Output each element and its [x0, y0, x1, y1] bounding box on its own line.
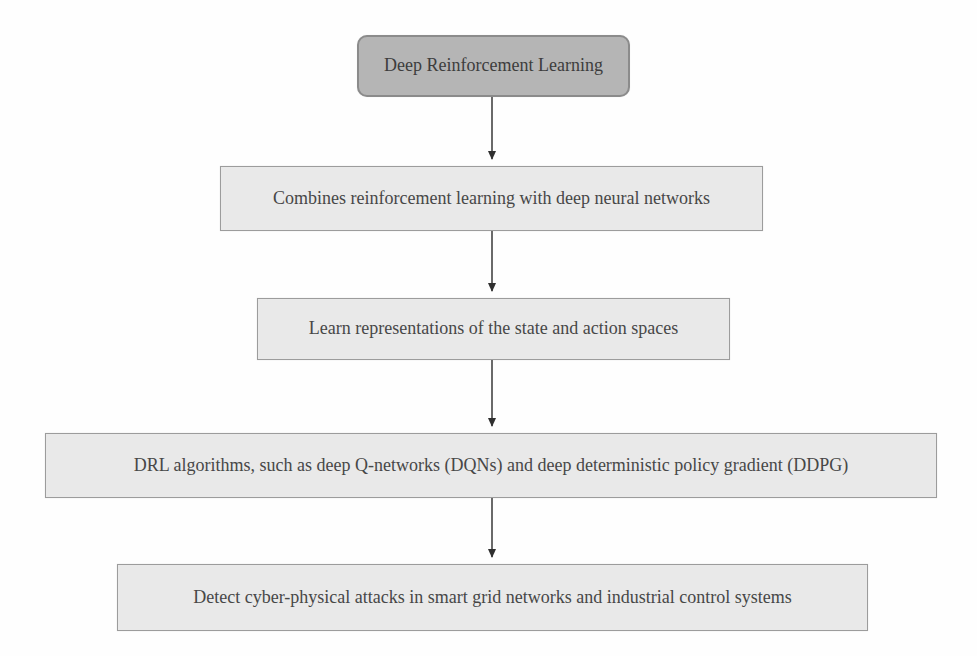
node-label: Learn representations of the state and a… [309, 318, 678, 340]
arrow-down-icon [488, 151, 496, 160]
node-label: DRL algorithms, such as deep Q-networks … [134, 455, 849, 477]
flowchart-node-algorithms: DRL algorithms, such as deep Q-networks … [45, 433, 937, 498]
flowchart-node-detect-attacks: Detect cyber-physical attacks in smart g… [117, 564, 868, 631]
flowchart-figure: Deep Reinforcement Learning Combines rei… [0, 0, 977, 656]
arrow-shaft [491, 360, 493, 426]
flowchart-node-combines: Combines reinforcement learning with dee… [220, 166, 763, 231]
arrow-down-icon [488, 549, 496, 558]
arrow-down-icon [488, 283, 496, 292]
flowchart-node-deep-reinforcement-learning: Deep Reinforcement Learning [357, 35, 630, 97]
arrow-shaft [491, 97, 493, 159]
node-label: Deep Reinforcement Learning [384, 55, 603, 77]
flowchart-node-representations: Learn representations of the state and a… [257, 298, 730, 360]
arrow-down-icon [488, 418, 496, 427]
node-label: Detect cyber-physical attacks in smart g… [193, 587, 791, 609]
node-label: Combines reinforcement learning with dee… [273, 188, 710, 210]
arrow-shaft [491, 231, 493, 291]
